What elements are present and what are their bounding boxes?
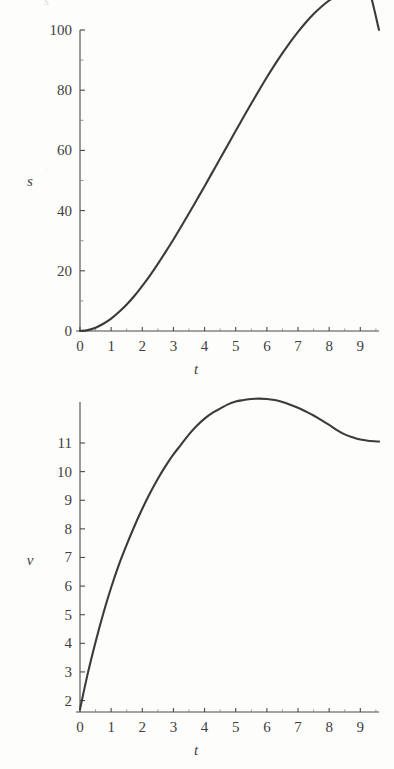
x-tick-label: 8	[325, 719, 333, 735]
y-tick-label: 0	[65, 323, 73, 339]
x-tick-label: 9	[357, 338, 365, 354]
y-axis-title: v	[27, 552, 34, 568]
velocity-plot: 0123456789234567891011 v t	[0, 380, 394, 769]
y-tick-label: 6	[65, 578, 73, 594]
y-tick-label: 60	[57, 142, 72, 158]
x-tick-label: 1	[107, 338, 115, 354]
x-tick-label: 6	[263, 338, 271, 354]
y-tick-label: 3	[65, 664, 73, 680]
y-tick-label: 11	[58, 435, 72, 451]
x-tick-label: 4	[201, 719, 209, 735]
tick-label-group: 0123456789234567891011	[57, 435, 364, 735]
displacement-plot-svg: 0123456789020406080100 s t	[0, 0, 394, 390]
y-tick-label: 5	[65, 607, 73, 623]
y-tick-label: 4	[65, 635, 73, 651]
y-tick-label: 8	[65, 521, 73, 537]
x-tick-label: 4	[201, 338, 209, 354]
x-tick-label: 0	[76, 719, 84, 735]
figure-page: s 0123456789020406080100 s t 01234567892…	[0, 0, 394, 769]
y-tick-label: 40	[57, 203, 72, 219]
y-tick-label: 20	[57, 263, 72, 279]
data-curve	[80, 399, 379, 710]
x-tick-label: 3	[170, 338, 178, 354]
x-axis-title: t	[194, 742, 199, 758]
data-curve	[80, 0, 379, 331]
x-tick-label: 7	[294, 719, 302, 735]
displacement-plot: 0123456789020406080100 s t	[0, 0, 394, 390]
y-tick-label: 80	[57, 82, 72, 98]
y-tick-label: 2	[65, 693, 73, 709]
tick-label-group: 0123456789020406080100	[50, 22, 365, 354]
tick-group	[80, 30, 376, 331]
x-axis-title: t	[194, 361, 199, 377]
x-tick-label: 5	[232, 338, 240, 354]
y-axis-title: s	[27, 173, 33, 189]
x-tick-label: 0	[76, 338, 84, 354]
x-tick-label: 9	[357, 719, 365, 735]
x-tick-label: 5	[232, 719, 240, 735]
y-tick-label: 100	[50, 22, 73, 38]
y-tick-label: 10	[57, 464, 72, 480]
x-tick-label: 7	[294, 338, 302, 354]
y-tick-label: 7	[65, 549, 73, 565]
velocity-plot-svg: 0123456789234567891011 v t	[0, 380, 394, 769]
x-tick-label: 3	[170, 719, 178, 735]
x-tick-label: 1	[107, 719, 115, 735]
tick-group	[80, 443, 376, 712]
x-tick-label: 6	[263, 719, 271, 735]
x-tick-label: 2	[139, 719, 147, 735]
x-tick-label: 2	[139, 338, 147, 354]
y-tick-label: 9	[65, 492, 73, 508]
x-tick-label: 8	[325, 338, 333, 354]
